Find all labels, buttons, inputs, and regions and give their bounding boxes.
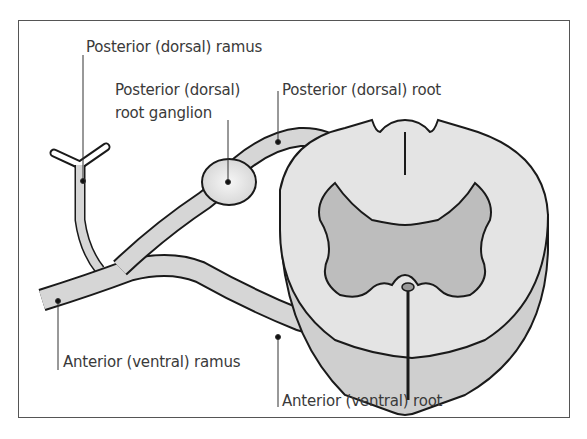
label-ganglion-line2: root ganglion — [115, 104, 212, 122]
spinal-cord — [280, 120, 548, 415]
label-posterior-root: Posterior (dorsal) root — [282, 81, 441, 99]
spinal-nerve-diagram — [0, 0, 587, 439]
posterior-ramus — [54, 147, 106, 270]
label-anterior-ramus: Anterior (ventral) ramus — [63, 353, 240, 371]
label-anterior-root: Anterior (ventral) root — [282, 392, 442, 410]
label-ganglion-line1: Posterior (dorsal) — [115, 81, 240, 99]
central-canal — [402, 283, 414, 291]
label-posterior-ramus: Posterior (dorsal) ramus — [86, 38, 262, 56]
